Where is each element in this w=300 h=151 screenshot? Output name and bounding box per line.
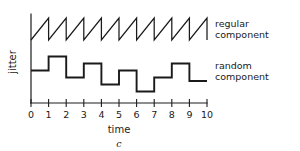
x-tick-label-9: 9 [186,109,192,120]
x-tick-label-3: 3 [81,109,87,120]
y-axis-title: jitter [7,49,18,75]
legend-regular-line2: component [215,29,269,40]
x-axis-title: time [108,124,131,135]
x-tick-label-1: 1 [46,109,52,120]
figure-container: 0 1 2 3 4 5 6 7 8 9 10 time c jitter reg… [0,0,300,151]
legend-random-component: random component [215,60,269,82]
x-tick-label-8: 8 [169,109,175,120]
random-component-waveform [31,57,207,92]
x-tick-label-7: 7 [151,109,157,120]
x-tick-label-2: 2 [63,109,69,120]
jitter-time-chart: 0 1 2 3 4 5 6 7 8 9 10 time c jitter reg… [0,0,300,151]
sawtooth-path [31,18,207,40]
legend-regular-component: regular component [215,18,269,40]
legend-regular-line1: regular [215,18,249,29]
x-tick-label-4: 4 [98,109,104,120]
x-axis-tick-labels: 0 1 2 3 4 5 6 7 8 9 10 [28,109,213,120]
x-tick-label-6: 6 [134,109,140,120]
x-tick-label-10: 10 [201,109,213,120]
x-tick-label-5: 5 [116,109,122,120]
legend-random-line1: random [215,60,252,71]
step-path [31,57,207,92]
figure-caption: c [116,138,122,149]
legend-random-line2: component [215,71,269,82]
regular-component-waveform [31,18,207,40]
x-tick-label-0: 0 [28,109,34,120]
